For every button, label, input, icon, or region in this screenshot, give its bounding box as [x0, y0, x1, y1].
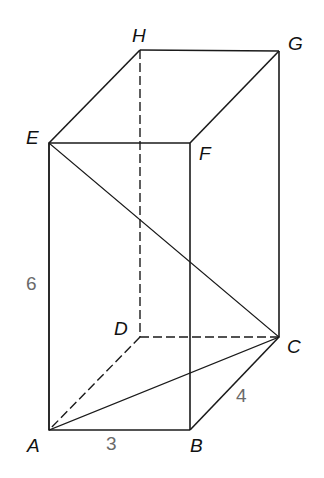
vertex-label-e: E — [26, 127, 39, 148]
edge-eh — [49, 50, 140, 143]
dimension-label-ae: 6 — [26, 273, 37, 294]
dimension-label-bc: 4 — [236, 385, 247, 406]
vertex-label-f: F — [199, 143, 212, 164]
edge-da-hidden — [49, 337, 140, 430]
vertex-label-a: A — [26, 435, 40, 456]
edge-bc — [190, 337, 279, 430]
vertex-label-d: D — [114, 318, 128, 339]
edge-hg — [140, 50, 279, 51]
edge-gf — [190, 51, 279, 143]
vertex-label-b: B — [190, 435, 203, 456]
vertex-label-c: C — [287, 336, 301, 357]
vertex-label-g: G — [288, 33, 303, 54]
cuboid-diagram: H G E F D C A B 6 3 4 — [0, 0, 324, 478]
vertex-label-h: H — [132, 25, 146, 46]
dimension-label-ab: 3 — [106, 433, 117, 454]
